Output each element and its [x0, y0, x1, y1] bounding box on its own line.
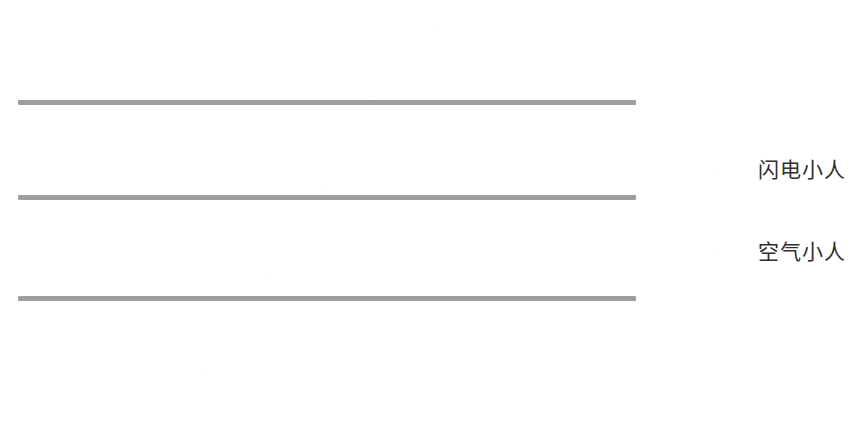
- dark-dress-figure-icon: [686, 140, 740, 198]
- chain-line: [18, 296, 636, 301]
- gray-stick-figure-icon: [686, 222, 740, 280]
- diagram-canvas: 闪电小人 空气小人: [0, 0, 862, 444]
- chain-line: [18, 100, 636, 105]
- chain-line: [18, 195, 636, 200]
- legend-item-label: 空气小人: [758, 241, 846, 262]
- legend-item-label: 闪电小人: [758, 159, 846, 180]
- legend-item: 闪电小人: [686, 140, 846, 198]
- legend-item: 空气小人: [686, 222, 846, 280]
